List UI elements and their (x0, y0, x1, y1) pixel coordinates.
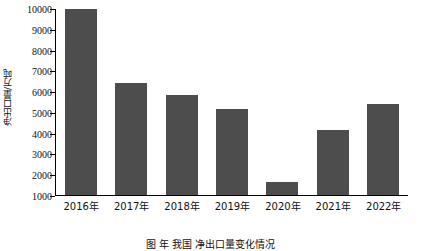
y-tick-label: 2000 (32, 170, 52, 181)
x-tick-label: 2016年 (56, 198, 106, 213)
bar-series (56, 9, 408, 195)
bar (65, 9, 97, 195)
bar-slot (106, 9, 156, 195)
x-tick-label: 2017年 (106, 198, 156, 213)
y-axis-title: 净出口量/万吨 (0, 0, 15, 194)
y-tick-label: 9000 (32, 24, 52, 35)
y-tick-label: 5000 (32, 107, 52, 118)
bar-slot (358, 9, 408, 195)
x-axis-labels: 2016年2017年2018年2019年2020年2021年2022年 (56, 198, 409, 213)
figure-caption: 图 年 我国 净出口量变化情况 (0, 236, 421, 251)
x-tick-label: 2021年 (308, 198, 358, 213)
bar (317, 130, 349, 195)
x-tick-label: 2022年 (359, 198, 409, 213)
x-axis-line (55, 195, 408, 196)
x-tick-label: 2018年 (157, 198, 207, 213)
bar (266, 182, 298, 196)
plot-area: 1000200030004000500060007000800090001000… (55, 9, 408, 196)
bar-slot (157, 9, 207, 195)
bar-slot (307, 9, 357, 195)
bar (115, 83, 147, 195)
y-tick-label: 6000 (32, 87, 52, 98)
x-tick-label: 2019年 (207, 198, 257, 213)
bar-slot (56, 9, 106, 195)
bar-slot (207, 9, 257, 195)
y-tick-label: 7000 (32, 66, 52, 77)
y-tick-label: 1000 (32, 191, 52, 202)
y-tick-label: 4000 (32, 128, 52, 139)
bar (216, 109, 248, 195)
bar (367, 104, 399, 195)
y-tick-label: 10000 (27, 4, 52, 15)
y-tick-label: 3000 (32, 149, 52, 160)
bar (166, 95, 198, 195)
x-tick-label: 2020年 (258, 198, 308, 213)
bar-slot (257, 9, 307, 195)
y-tick-label: 8000 (32, 45, 52, 56)
